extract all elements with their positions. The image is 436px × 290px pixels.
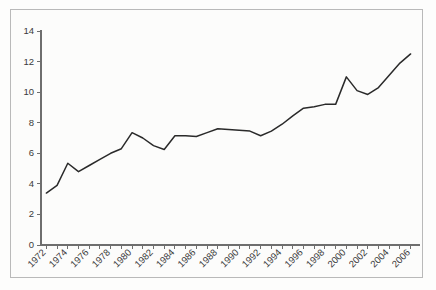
y-axis-tick-label: 4	[29, 178, 34, 189]
y-axis: 02468101214	[23, 25, 41, 250]
x-axis-tick-label: 1998	[304, 247, 327, 270]
x-axis-tick-label: 1990	[218, 247, 241, 270]
y-axis-tick-label: 14	[23, 25, 34, 36]
y-axis-tick-label: 0	[29, 239, 34, 250]
x-axis-tick-label: 1992	[239, 247, 262, 270]
x-axis-tick-label: 1980	[111, 247, 134, 270]
x-axis: 1972197419761978198019821984198619881990…	[25, 245, 420, 269]
x-axis-tick-label: 1976	[68, 247, 91, 270]
x-axis-tick-label: 1994	[261, 247, 284, 270]
y-axis-tick-label: 2	[29, 208, 34, 219]
x-axis-tick-label: 1996	[282, 247, 305, 270]
x-axis-tick-label: 2002	[346, 247, 369, 270]
data-line-series-1	[46, 54, 410, 193]
chart-figure: 02468101214 1972197419761978198019821984…	[0, 0, 436, 290]
x-axis-tick-label: 2004	[368, 247, 391, 270]
x-axis-tick-label: 1974	[46, 247, 69, 270]
y-axis-tick-label: 8	[29, 117, 34, 128]
y-axis-tick-label: 12	[23, 56, 34, 67]
line-chart-plot: 02468101214 1972197419761978198019821984…	[0, 0, 436, 290]
y-axis-tick-label: 10	[23, 86, 34, 97]
x-axis-tick-label: 1984	[154, 247, 177, 270]
x-axis-tick-label: 2006	[389, 247, 412, 270]
x-axis-tick-label: 1982	[132, 247, 155, 270]
y-axis-tick-label: 6	[29, 147, 34, 158]
x-axis-tick-label: 2000	[325, 247, 348, 270]
x-axis-tick-label: 1978	[89, 247, 112, 270]
x-axis-tick-label: 1988	[196, 247, 219, 270]
data-series-group	[46, 54, 410, 193]
x-axis-tick-label: 1986	[175, 247, 198, 270]
x-axis-tick-label: 1972	[25, 247, 48, 270]
